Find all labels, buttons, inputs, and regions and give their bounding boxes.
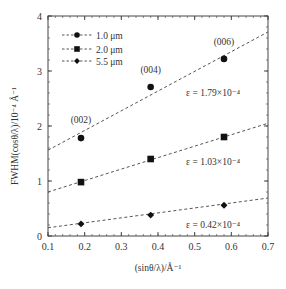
axis-ticks: 0.10.20.30.40.50.60.701234 xyxy=(37,11,274,252)
diamond-marker xyxy=(147,212,154,219)
x-tick-label: 0.4 xyxy=(152,241,165,252)
x-tick-label: 0.6 xyxy=(225,241,238,252)
annotation-label: ε = 0.42×10⁻⁴ xyxy=(186,220,241,230)
chart-canvas: 0.10.20.30.40.50.60.701234 (002)(004)(00… xyxy=(0,0,286,289)
x-tick-label: 0.1 xyxy=(42,241,55,252)
y-axis-title: FWHM(cosθ/λ)/10⁻⁴ Å⁻¹ xyxy=(9,87,21,185)
annotation-label: ε = 1.03×10⁻⁴ xyxy=(186,157,241,167)
figure-caption-faint xyxy=(0,276,286,288)
x-tick-label: 0.3 xyxy=(115,241,128,252)
legend-label: 2.0 μm xyxy=(96,45,123,55)
diamond-marker xyxy=(221,202,228,209)
square-marker xyxy=(221,134,228,141)
diamond-marker xyxy=(78,220,85,227)
y-tick-label: 4 xyxy=(37,11,42,22)
square-marker xyxy=(78,179,85,186)
x-tick-label: 0.5 xyxy=(188,241,201,252)
diamond-marker xyxy=(74,58,80,64)
circle-marker xyxy=(221,56,228,63)
x-tick-label: 0.7 xyxy=(262,241,275,252)
circle-marker xyxy=(74,32,80,38)
annotation-label: (004) xyxy=(140,65,161,76)
circle-marker xyxy=(78,135,85,142)
circle-marker xyxy=(147,84,154,91)
y-tick-label: 2 xyxy=(37,121,42,132)
y-tick-label: 0 xyxy=(37,231,42,242)
legend-label: 1.0 μm xyxy=(96,31,123,41)
annotation-label: (006) xyxy=(214,37,235,48)
y-tick-label: 1 xyxy=(37,176,42,187)
square-marker xyxy=(147,156,154,163)
annotation-label: ε = 1.79×10⁻⁴ xyxy=(186,88,241,98)
data-points xyxy=(78,56,228,228)
legend: 1.0 μm2.0 μm5.5 μm xyxy=(62,31,123,67)
annotation-label: (002) xyxy=(71,115,92,126)
y-tick-label: 3 xyxy=(37,66,42,77)
legend-label: 5.5 μm xyxy=(96,57,123,67)
square-marker xyxy=(74,46,80,52)
x-axis-title: (sinθ/λ)/Å⁻¹ xyxy=(135,262,182,274)
x-tick-label: 0.2 xyxy=(78,241,91,252)
